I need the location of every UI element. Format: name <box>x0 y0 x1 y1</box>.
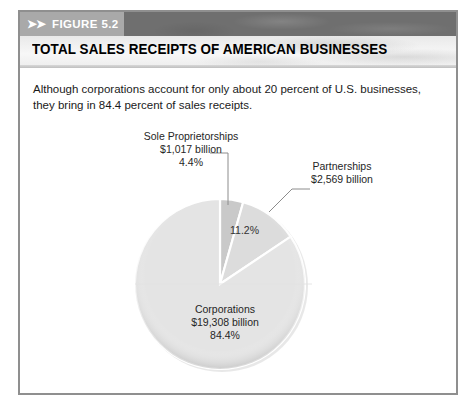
slice-label-corporations: Corporations $19,308 billion 84.4% <box>140 303 310 342</box>
figure-number-tab: ➤➤ FIGURE 5.2 <box>20 12 124 36</box>
double-chevron-right-icon: ➤➤ <box>27 18 45 30</box>
slice-label-corporations-percent: 84.4% <box>140 329 310 342</box>
figure-header-band: ➤➤ FIGURE 5.2 <box>20 12 456 36</box>
slice-label-partnerships-name: Partnerships <box>272 160 412 173</box>
figure-container: ➤➤ FIGURE 5.2 TOTAL SALES RECEIPTS OF AM… <box>18 10 458 395</box>
slice-label-corporations-amount: $19,308 billion <box>140 316 310 329</box>
pie-chart: Sole Proprietorships $1,017 billion 4.4%… <box>20 68 456 395</box>
slice-label-partnerships-amount: $2,569 billion <box>272 173 412 186</box>
figure-title-band: TOTAL SALES RECEIPTS OF AMERICAN BUSINES… <box>20 36 456 68</box>
leader-line-partnerships <box>269 189 292 212</box>
figure-body: Although corporations account for only a… <box>20 68 456 395</box>
slice-label-partnerships: Partnerships $2,569 billion <box>272 160 412 186</box>
slice-label-sole-proprietorships-percent: 4.4% <box>116 156 266 169</box>
slice-label-sole-proprietorships-amount: $1,017 billion <box>116 143 266 156</box>
slice-label-sole-proprietorships: Sole Proprietorships $1,017 billion 4.4% <box>116 130 266 169</box>
figure-number-label: FIGURE 5.2 <box>52 18 119 30</box>
figure-title: TOTAL SALES RECEIPTS OF AMERICAN BUSINES… <box>32 41 387 57</box>
slice-percent-partnerships: 11.2% <box>230 224 259 237</box>
slice-label-sole-proprietorships-name: Sole Proprietorships <box>116 130 266 143</box>
slice-label-corporations-name: Corporations <box>140 303 310 316</box>
